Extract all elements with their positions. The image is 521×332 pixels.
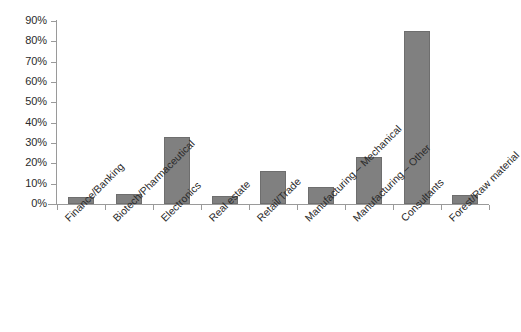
y-axis-tick-label-text: 70% [1,56,47,67]
y-axis-tick-label: 20% [0,157,47,168]
y-axis-tick-label: 0% [0,198,47,209]
y-axis-tick-label: 60% [0,76,47,87]
y-axis-tick-label-text: 50% [1,96,47,107]
y-axis-tick-label: 40% [0,117,47,128]
x-axis-tick [393,205,394,210]
y-axis-tick-label-text: 40% [1,117,47,128]
y-axis-tick-label-text: 10% [1,178,47,189]
y-axis-tick-label-text: 80% [1,35,47,46]
y-axis-tick-label: 80% [0,35,47,46]
y-axis-tick-label: 90% [0,15,47,26]
y-axis-tick-label: 30% [0,137,47,148]
x-axis-tick [441,205,442,210]
x-axis-tick [105,205,106,210]
x-axis-tick [201,205,202,210]
x-axis-tick [297,205,298,210]
x-axis-tick [57,205,58,210]
x-axis-tick [345,205,346,210]
y-axis-tick-label-text: 30% [1,137,47,148]
y-axis-tick-label: 50% [0,96,47,107]
y-axis-tick-label: 10% [0,178,47,189]
plot-area [57,21,489,204]
y-axis-tick-label: 70% [0,56,47,67]
x-axis-tick [489,205,490,210]
bar [404,31,430,204]
y-axis-tick-label-text: 90% [1,15,47,26]
x-axis-tick [249,205,250,210]
y-axis-tick-label-text: 60% [1,76,47,87]
y-axis-tick-label-text: 20% [1,157,47,168]
y-axis-tick-label-text: 0% [1,198,47,209]
x-axis-tick [153,205,154,210]
